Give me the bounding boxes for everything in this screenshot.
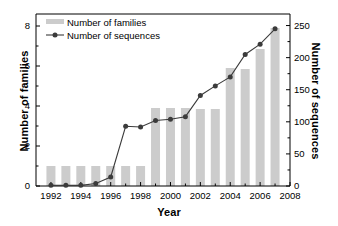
bar-2003 — [211, 109, 220, 186]
bar-2002 — [196, 109, 205, 186]
data-point-1992 — [48, 183, 53, 188]
x-tick-label: 2008 — [270, 190, 310, 201]
y-right-tick-label: 50 — [294, 148, 324, 159]
data-point-2006 — [258, 42, 263, 47]
y-left-tick-label: 0 — [4, 180, 30, 191]
data-point-2001 — [183, 114, 188, 119]
legend-item-sequences-label: Number of sequences — [67, 30, 160, 41]
data-point-1996 — [108, 175, 113, 180]
legend-item-families-label: Number of families — [67, 17, 146, 28]
y-right-tick-label: 200 — [294, 52, 324, 63]
legend-symbols — [46, 19, 64, 38]
bar-2001 — [181, 108, 190, 186]
bar-2005 — [241, 69, 250, 186]
data-point-1995 — [93, 181, 98, 186]
legend-swatch-families — [46, 19, 64, 24]
data-point-2002 — [198, 93, 203, 98]
data-point-1993 — [63, 183, 68, 188]
y-left-tick-label: 2 — [4, 140, 30, 151]
data-point-2004 — [228, 74, 233, 79]
chart-figure: Number of families Number of sequences Y… — [0, 0, 338, 226]
bar-series — [46, 28, 279, 186]
data-point-1997 — [123, 124, 128, 129]
x-axis-ticks — [51, 182, 290, 186]
y-left-tick-label: 8 — [4, 20, 30, 31]
y-axis-right-ticks — [286, 26, 290, 186]
bar-2004 — [226, 68, 235, 186]
x-axis-title: Year — [0, 206, 338, 218]
y-left-tick-label: 4 — [4, 100, 30, 111]
y-right-tick-label: 100 — [294, 116, 324, 127]
bar-2007 — [271, 28, 280, 186]
data-point-1999 — [153, 118, 158, 123]
y-left-tick-label: 6 — [4, 60, 30, 71]
y-right-tick-label: 250 — [294, 20, 324, 31]
data-point-2003 — [213, 83, 218, 88]
bar-1997 — [121, 166, 130, 186]
y-right-tick-label: 150 — [294, 84, 324, 95]
legend-marker-sequences — [53, 33, 58, 38]
data-point-2005 — [243, 52, 248, 57]
data-point-1998 — [138, 124, 143, 129]
y-axis-left-ticks — [36, 26, 40, 186]
data-point-1994 — [78, 183, 83, 188]
bar-2006 — [256, 49, 265, 186]
data-point-2000 — [168, 117, 173, 122]
data-point-2007 — [273, 26, 278, 31]
